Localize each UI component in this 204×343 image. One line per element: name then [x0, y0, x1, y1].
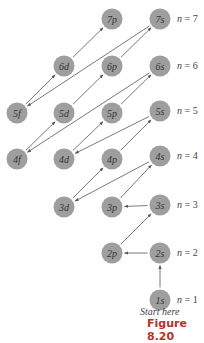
- figure-caption: Figure 8.20: [147, 317, 204, 343]
- orbital-node-7s: 7s: [150, 9, 171, 30]
- orbital-node-4f: 4f: [7, 149, 28, 170]
- orbital-label: 4s: [156, 151, 165, 162]
- orbital-label: 6p: [107, 61, 117, 72]
- arrow-6p-to-7s: [121, 28, 151, 58]
- orbital-node-6p: 6p: [102, 56, 123, 77]
- shell-label-n3: n = 3: [177, 199, 198, 210]
- orbital-label: 3d: [58, 202, 70, 213]
- orbital-label: 7s: [156, 14, 165, 25]
- arrow-5p-to-6s: [121, 75, 151, 105]
- arrow-5d-to-6p: [73, 75, 103, 105]
- orbital-label: 3s: [155, 200, 165, 211]
- orbital-label: 2p: [107, 248, 117, 259]
- orbital-node-5p: 5p: [102, 103, 123, 124]
- orbital-node-5s: 5s: [150, 101, 171, 122]
- orbital-node-7p: 7p: [102, 9, 123, 30]
- orbital-label: 5s: [156, 106, 165, 117]
- shell-labels-layer: n = 7n = 6n = 5n = 4n = 3n = 2n = 1: [177, 13, 198, 305]
- orbital-label: 7p: [107, 14, 117, 25]
- shell-label-n6: n = 6: [177, 60, 198, 71]
- orbital-label: 1s: [156, 295, 165, 306]
- shell-label-n2: n = 2: [177, 247, 198, 258]
- orbital-label: 4d: [59, 154, 70, 165]
- orbital-node-3p: 3p: [102, 197, 123, 218]
- arrows-layer: [26, 26, 160, 288]
- orbital-node-5f: 5f: [7, 103, 28, 124]
- shell-label-n4: n = 4: [177, 150, 198, 161]
- shell-label-n1: n = 1: [177, 294, 198, 305]
- nodes-layer: 7p7s6d6p6s5f5d5p5s4f4d4p4s3d3p3s2p2s1s: [7, 9, 171, 311]
- arrow-3d-to-4p: [73, 168, 103, 198]
- orbital-label: 5d: [59, 108, 70, 119]
- arrow-5f-to-6d: [26, 75, 55, 104]
- orbital-node-2p: 2p: [102, 243, 123, 264]
- orbital-label: 6d: [59, 61, 70, 72]
- orbital-node-6s: 6s: [150, 56, 171, 77]
- orbital-node-2s: 2s: [150, 243, 171, 264]
- arrow-2p-to-3s: [121, 214, 151, 244]
- arrow-4f-to-5d: [26, 122, 55, 151]
- arrow-4d-to-5p: [73, 122, 103, 151]
- shell-label-n7: n = 7: [177, 13, 198, 24]
- arrow-4p-to-5s: [121, 120, 151, 150]
- orbital-label: 5p: [107, 108, 117, 119]
- orbital-label: 4f: [13, 154, 22, 165]
- shell-label-n5: n = 5: [177, 105, 198, 116]
- start-here-label: Start here: [140, 306, 179, 317]
- arrow-3p-to-4s: [121, 165, 152, 198]
- orbital-node-3s: 3s: [150, 195, 171, 216]
- orbital-label: 2s: [156, 248, 165, 259]
- orbital-node-5d: 5d: [54, 103, 75, 124]
- orbital-node-3d: 3d: [54, 197, 75, 218]
- arrow-3s-to-3p: [124, 206, 147, 207]
- orbital-node-6d: 6d: [54, 56, 75, 77]
- orbital-label: 4p: [107, 154, 117, 165]
- orbital-label: 3p: [106, 202, 117, 213]
- orbital-node-4p: 4p: [102, 149, 123, 170]
- orbital-node-4d: 4d: [54, 149, 75, 170]
- arrow-6d-to-7p: [73, 28, 103, 58]
- orbital-label: 5f: [13, 108, 22, 119]
- orbital-node-4s: 4s: [150, 146, 171, 167]
- orbital-label: 6s: [156, 61, 165, 72]
